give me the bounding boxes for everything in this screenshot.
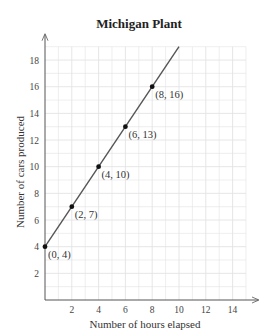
point-label: (8, 16) xyxy=(155,89,183,101)
y-tick-label: 2 xyxy=(34,269,39,279)
data-point xyxy=(150,84,155,89)
x-tick-label: 12 xyxy=(201,305,211,315)
x-tick-label: 10 xyxy=(174,305,184,315)
line-chart: 246810121424681012141618 (0, 4)(2, 7)(4,… xyxy=(0,0,278,336)
point-label: (6, 13) xyxy=(128,129,156,141)
data-point xyxy=(69,204,74,209)
x-tick-label: 14 xyxy=(228,305,238,315)
point-label: (4, 10) xyxy=(102,169,130,181)
data-series: (0, 4)(2, 7)(4, 10)(6, 13)(8, 16) xyxy=(43,47,184,261)
y-tick-label: 8 xyxy=(34,189,39,199)
x-tick-label: 4 xyxy=(96,305,101,315)
y-axis-label: Number of cars produced xyxy=(14,115,26,228)
y-tick-label: 18 xyxy=(30,56,40,66)
tick-labels: 246810121424681012141618 xyxy=(30,56,238,315)
y-tick-label: 6 xyxy=(34,216,39,226)
axes xyxy=(42,34,259,303)
grid xyxy=(45,47,246,300)
x-axis-label: Number of hours elapsed xyxy=(90,318,201,330)
x-tick-label: 2 xyxy=(69,305,74,315)
y-tick-label: 10 xyxy=(30,162,40,172)
y-tick-label: 16 xyxy=(30,82,40,92)
y-tick-label: 14 xyxy=(30,109,40,119)
data-point xyxy=(123,124,128,129)
x-tick-label: 6 xyxy=(123,305,128,315)
point-label: (0, 4) xyxy=(48,249,71,261)
y-tick-label: 12 xyxy=(30,136,40,146)
data-point xyxy=(43,244,48,249)
x-tick-label: 8 xyxy=(150,305,155,315)
y-tick-label: 4 xyxy=(34,242,39,252)
point-label: (2, 7) xyxy=(75,209,98,221)
data-point xyxy=(96,164,101,169)
